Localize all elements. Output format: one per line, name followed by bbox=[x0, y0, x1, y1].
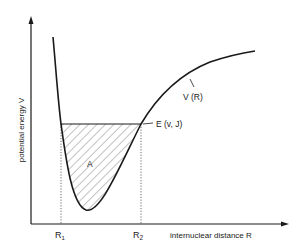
curve-label: V (R) bbox=[183, 92, 203, 102]
area-label: A bbox=[87, 159, 93, 169]
energy-label-leader bbox=[143, 123, 153, 124]
potential-energy-diagram: V (R) E (v, J) A R1 R2 internuclear dist… bbox=[0, 0, 298, 249]
r2-label: R2 bbox=[133, 230, 144, 241]
x-axis-arrow-icon bbox=[281, 222, 289, 227]
energy-level-label: E (v, J) bbox=[156, 119, 182, 129]
y-axis-arrow-icon bbox=[29, 16, 34, 24]
curve-label-leader bbox=[190, 79, 194, 87]
y-axis-label: potential energy V bbox=[17, 97, 26, 162]
y-axis bbox=[29, 16, 34, 224]
x-axis-label: internuclear distance R bbox=[170, 231, 252, 240]
r1-label: R1 bbox=[55, 230, 66, 241]
x-axis bbox=[31, 222, 289, 227]
